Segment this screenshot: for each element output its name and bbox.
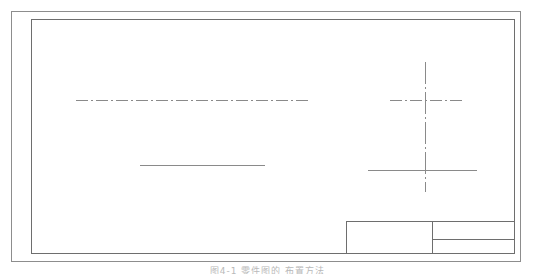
right-view-baseline	[368, 170, 477, 171]
lower-left-outline	[140, 165, 265, 166]
sheet-inner-border	[31, 19, 515, 254]
right-view-vertical-centerline	[425, 62, 426, 192]
upper-left-centerline	[76, 100, 310, 101]
drawing-sheet-canvas: 图4-1 零件图的 布置方法	[0, 0, 535, 274]
title-block-horizontal-divider	[432, 239, 514, 240]
title-block-vertical-divider	[432, 222, 433, 253]
right-view-horizontal-centerline	[390, 100, 462, 101]
title-block	[346, 221, 515, 254]
figure-caption: 图4-1 零件图的 布置方法	[0, 264, 535, 274]
